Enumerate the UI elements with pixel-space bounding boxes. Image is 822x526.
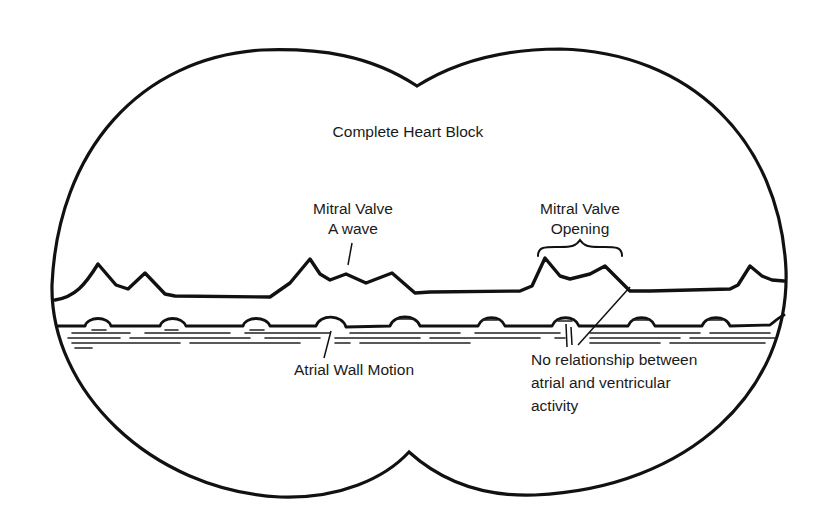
figure-title: Complete Heart Block [333, 123, 484, 140]
echocardiogram-figure: Complete Heart Block Mitral Valve A wave… [0, 0, 822, 526]
timing-mark-2 [571, 327, 572, 345]
atrial-wall-leader-line [324, 331, 331, 358]
label-no-relationship-line3: activity [531, 397, 579, 414]
mitral-valve-trace [55, 258, 784, 300]
scope-outline [52, 49, 786, 497]
a-wave-leader-line [348, 243, 352, 265]
label-a-wave-line2: A wave [328, 220, 378, 237]
opening-brace [538, 240, 622, 256]
label-opening-line1: Mitral Valve [540, 200, 620, 217]
echo-hatching [68, 319, 775, 348]
no-relationship-leader-line [578, 287, 630, 345]
label-no-relationship-line2: atrial and ventricular [531, 374, 671, 391]
timing-mark-1 [566, 324, 567, 347]
label-atrial-wall-motion: Atrial Wall Motion [294, 361, 414, 378]
atrial-wall-trace [58, 315, 784, 327]
label-opening-line2: Opening [551, 220, 610, 237]
label-no-relationship-line1: No relationship between [531, 351, 697, 368]
label-a-wave-line1: Mitral Valve [313, 200, 393, 217]
